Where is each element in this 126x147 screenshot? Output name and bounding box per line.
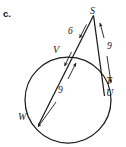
point-label-u: U (106, 88, 113, 98)
measure-label-vw: 9 (58, 86, 63, 96)
geometry-figure: c. S V W T U 6 9 9 (0, 0, 126, 147)
geometry-drawing (0, 0, 126, 147)
circle-shape (25, 57, 111, 143)
measure-label-sv: 6 (68, 27, 73, 37)
point-label-w: W (18, 112, 26, 122)
point-label-s: S (90, 6, 95, 16)
dimension-arrow-VW (38, 63, 76, 127)
secant-line-SU (94, 16, 105, 97)
point-label-t: T (106, 76, 112, 86)
point-label-v: V (53, 45, 59, 55)
secant-line-SW (39, 16, 94, 126)
measure-label-st: 9 (107, 42, 112, 52)
